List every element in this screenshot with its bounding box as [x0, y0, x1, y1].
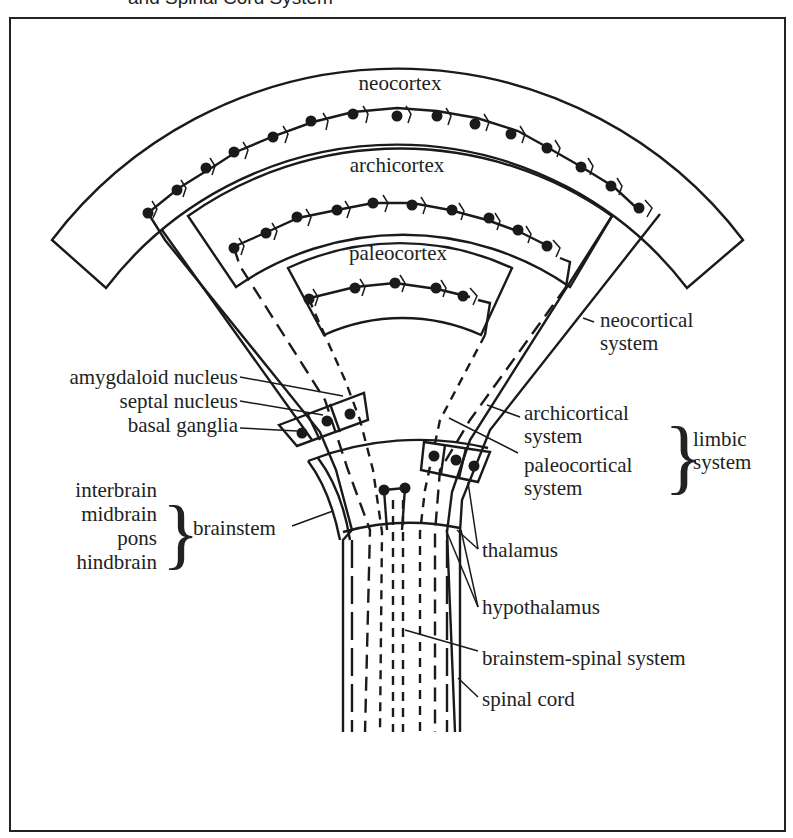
thalamus-dot [469, 461, 480, 472]
hindbrain-label: hindbrain [77, 550, 158, 574]
neuron-dot [268, 132, 279, 143]
neuron-dot [470, 119, 481, 130]
neuron-dot [350, 283, 361, 294]
neuron-dot [447, 205, 458, 216]
spinal-cord-label: spinal cord [482, 687, 575, 711]
neocortical-system-label-2: system [600, 331, 658, 355]
thalamus-box [421, 442, 490, 482]
amygdaloid-nucleus-dot [345, 409, 356, 420]
archicortical-system-label-2: system [524, 424, 582, 448]
thalamus-label: thalamus [482, 538, 558, 562]
neuron-dot [542, 241, 553, 252]
neuron-dot [432, 111, 443, 122]
amygdaloid-nucleus-label: amygdaloid nucleus [69, 365, 238, 389]
neuron-dot [513, 225, 524, 236]
septal-nucleus-dot [322, 416, 333, 427]
neocortex-label: neocortex [359, 71, 442, 95]
neuron-dot [201, 163, 212, 174]
hypothalamus-label: hypothalamus [482, 595, 600, 619]
brain-diagram: neocortex archicortex [0, 0, 793, 838]
limbic-system-label-2: system [693, 450, 751, 474]
neuron-dot [390, 278, 401, 289]
neuron-dot [484, 213, 495, 224]
thalamus-dot [451, 455, 462, 466]
neocortical-system-label-1: neocortical [600, 308, 693, 332]
interbrain-label: interbrain [75, 478, 157, 502]
neuron-dot [606, 181, 617, 192]
paleocortical-system-label-2: system [524, 476, 582, 500]
paleocortical-system-label-1: paleocortical [524, 453, 633, 477]
archicortical-system-label-1: archicortical [524, 401, 629, 425]
paleocortex-label: paleocortex [349, 241, 447, 265]
neuron-dot [292, 212, 303, 223]
neuron-dot [431, 283, 442, 294]
basal-ganglia-dot [297, 428, 308, 439]
leader-lines [240, 318, 594, 697]
neuron-dot [368, 198, 379, 209]
neuron-dot [172, 185, 183, 196]
archicortex-label: archicortex [350, 153, 445, 177]
neuron-dot [261, 228, 272, 239]
paleocortex-neuron-chain [304, 275, 491, 335]
neuron-dot [332, 205, 343, 216]
neuron-dot [229, 147, 240, 158]
brainstem-spinal-system-label: brainstem-spinal system [482, 646, 686, 670]
neuron-dot [458, 291, 469, 302]
septal-nucleus-label: septal nucleus [120, 389, 238, 413]
neuron-dot [576, 162, 587, 173]
limbic-system-label-1: limbic [693, 427, 747, 451]
basal-ganglia-label: basal ganglia [128, 413, 239, 437]
neuron-dot [407, 200, 418, 211]
neuron-dot [634, 203, 645, 214]
midbrain-label: midbrain [81, 502, 157, 526]
neuron-dot [306, 116, 317, 127]
thalamus-dot [429, 451, 440, 462]
neuron-dot [392, 111, 403, 122]
brainstem-label: brainstem [193, 516, 276, 540]
neuron-dot [348, 109, 359, 120]
neuron-dot [506, 129, 517, 140]
pons-label: pons [117, 526, 157, 550]
neuron-dot [542, 143, 553, 154]
